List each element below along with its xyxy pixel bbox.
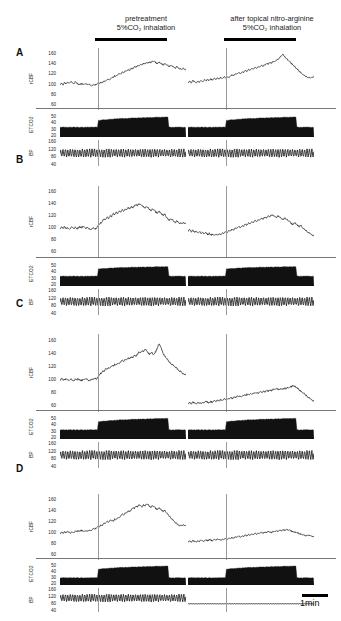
- tick-rcbf-A: 120: [38, 71, 56, 76]
- panel-separator-C: [36, 410, 336, 411]
- rcbf-trace-B-nitroarginine: [188, 186, 314, 258]
- bp-trace-A-after topical nitro-arginine: [188, 140, 314, 166]
- rcbf-trace-A-pretreatment: [60, 48, 186, 110]
- tick-bp-C: 80: [38, 456, 56, 461]
- panel-separator-A: [36, 108, 336, 109]
- rcbf-trace-B-pretreatment: [60, 186, 186, 258]
- etco2-trace-C-pretreatment: [60, 415, 186, 439]
- bp-trace-D-after topical nitro-arginine: [188, 588, 314, 612]
- axis-label-bp-D: BP: [29, 583, 34, 617]
- tick-etco2-A: 30: [38, 127, 56, 132]
- rcbf-trace-A-nitroarginine: [188, 48, 314, 110]
- axis-label-rcbf-D: rCBF: [29, 510, 34, 544]
- tick-rcbf-C: 80: [38, 390, 56, 395]
- tick-etco2-D: 30: [38, 575, 56, 580]
- tick-bp-D: 120: [38, 594, 56, 599]
- co2-onset-line-bp-D-pretreatment: [98, 588, 99, 612]
- co2-onset-line-A-nitroarginine: [226, 48, 227, 110]
- co2-inhalation-bar-nitroarginine: [224, 38, 296, 41]
- tick-bp-B: 40: [38, 311, 56, 316]
- co2-onset-line-bp-C-after topical nitro-arginine: [226, 442, 227, 468]
- tick-rcbf-D: 100: [38, 530, 56, 535]
- bp-trace-B-pretreatment: [60, 289, 186, 315]
- axis-label-rcbf-B: rCBF: [29, 205, 34, 239]
- tick-bp-B: 160: [38, 288, 56, 293]
- tick-rcbf-B: 60: [38, 249, 56, 254]
- column-header-nitroarginine-line1: after topical nitro-arginine: [206, 14, 338, 23]
- tick-etco2-B: 40: [38, 269, 56, 274]
- tick-bp-D: 160: [38, 587, 56, 592]
- tick-etco2-C: 50: [38, 416, 56, 421]
- column-header-nitroarginine: after topical nitro-arginine 5%CO₂ inhal…: [206, 14, 338, 32]
- tick-bp-A: 80: [38, 154, 56, 159]
- tick-etco2-B: 50: [38, 263, 56, 268]
- column-header-nitroarginine-line2: 5%CO₂ inhalation: [206, 23, 338, 32]
- tick-rcbf-A: 60: [38, 102, 56, 107]
- rcbf-trace-C-pretreatment: [60, 334, 186, 412]
- axis-label-bp-A: BP: [29, 136, 34, 170]
- co2-onset-line-B-nitroarginine: [226, 186, 227, 258]
- rcbf-trace-C-nitroarginine: [188, 334, 314, 412]
- co2-onset-line-bp-B-after topical nitro-arginine: [226, 289, 227, 315]
- tick-etco2-C: 20: [38, 435, 56, 440]
- bp-trace-D-pretreatment: [60, 588, 186, 612]
- panel-letter-b: B: [16, 154, 23, 165]
- co2-onset-line-bp-A-after topical nitro-arginine: [226, 140, 227, 166]
- co2-inhalation-bar-pretreatment: [95, 38, 167, 41]
- tick-etco2-D: 40: [38, 569, 56, 574]
- panel-letter-a: A: [16, 47, 23, 58]
- rcbf-trace-D-pretreatment: [60, 494, 186, 560]
- tick-rcbf-D: 120: [38, 519, 56, 524]
- etco2-trace-D-after topical nitro-arginine: [188, 563, 314, 585]
- tick-bp-C: 160: [38, 441, 56, 446]
- co2-onset-line-D-nitroarginine: [226, 494, 227, 560]
- axis-label-bp-B: BP: [29, 285, 34, 319]
- panel-letter-c: C: [16, 298, 23, 309]
- column-header-pretreatment: pretreatment 5%CO₂ inhalation: [88, 14, 204, 32]
- tick-etco2-C: 40: [38, 422, 56, 427]
- etco2-trace-A-after topical nitro-arginine: [188, 113, 314, 137]
- column-header-pretreatment-line1: pretreatment: [88, 14, 204, 23]
- tick-etco2-D: 20: [38, 581, 56, 586]
- co2-onset-line-bp-A-pretreatment: [98, 140, 99, 166]
- tick-rcbf-A: 160: [38, 51, 56, 56]
- tick-rcbf-A: 140: [38, 61, 56, 66]
- tick-bp-D: 40: [38, 608, 56, 613]
- tick-etco2-C: 30: [38, 429, 56, 434]
- tick-rcbf-D: 140: [38, 508, 56, 513]
- axis-label-rcbf-C: rCBF: [29, 356, 34, 390]
- etco2-trace-A-pretreatment: [60, 113, 186, 137]
- co2-onset-line-bp-B-pretreatment: [98, 289, 99, 315]
- co2-onset-line-B-pretreatment: [98, 186, 99, 258]
- tick-rcbf-C: 140: [38, 351, 56, 356]
- tick-rcbf-B: 80: [38, 237, 56, 242]
- tick-bp-A: 120: [38, 147, 56, 152]
- etco2-trace-D-pretreatment: [60, 563, 186, 585]
- tick-bp-A: 40: [38, 162, 56, 167]
- tick-rcbf-B: 160: [38, 189, 56, 194]
- tick-bp-A: 160: [38, 139, 56, 144]
- tick-rcbf-A: 100: [38, 82, 56, 87]
- bp-trace-A-pretreatment: [60, 140, 186, 166]
- tick-etco2-A: 40: [38, 120, 56, 125]
- tick-rcbf-C: 100: [38, 377, 56, 382]
- tick-rcbf-B: 100: [38, 225, 56, 230]
- bp-trace-C-after topical nitro-arginine: [188, 442, 314, 468]
- etco2-trace-C-after topical nitro-arginine: [188, 415, 314, 439]
- tick-etco2-B: 20: [38, 282, 56, 287]
- axis-label-rcbf-A: rCBF: [29, 62, 34, 96]
- bp-trace-B-after topical nitro-arginine: [188, 289, 314, 315]
- etco2-trace-B-pretreatment: [60, 262, 186, 286]
- tick-etco2-A: 20: [38, 133, 56, 138]
- column-header-pretreatment-line2: 5%CO₂ inhalation: [88, 23, 204, 32]
- figure-panel-container: pretreatment 5%CO₂ inhalation after topi…: [0, 0, 341, 621]
- tick-rcbf-C: 160: [38, 338, 56, 343]
- tick-rcbf-D: 160: [38, 497, 56, 502]
- tick-etco2-D: 50: [38, 563, 56, 568]
- axis-label-bp-C: BP: [29, 438, 34, 472]
- tick-bp-C: 120: [38, 449, 56, 454]
- tick-bp-B: 80: [38, 303, 56, 308]
- panel-letter-d: D: [16, 463, 23, 474]
- tick-rcbf-D: 60: [38, 552, 56, 557]
- co2-onset-line-A-pretreatment: [98, 48, 99, 110]
